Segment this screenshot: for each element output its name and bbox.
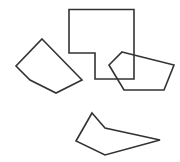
l-shape-polygon: [69, 10, 134, 80]
bottom-pentagon: [76, 113, 160, 155]
right-pentagon: [109, 52, 174, 90]
polygon-diagram: [0, 0, 180, 162]
left-pentagon: [16, 39, 82, 93]
